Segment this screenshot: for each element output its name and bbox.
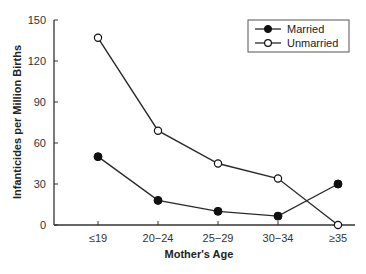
y-tick-label: 60 (34, 137, 46, 149)
data-point-unmarried (154, 127, 161, 134)
data-point-married (334, 180, 342, 188)
legend-marker-unmarried (265, 40, 272, 47)
data-point-married (94, 153, 102, 161)
x-tick-label: 20−24 (143, 232, 174, 244)
x-tick-label: 30−34 (263, 232, 294, 244)
x-tick-label: ≥35 (329, 232, 347, 244)
legend-label-unmarried: Unmarried (287, 37, 338, 49)
x-tick-label: 25−29 (203, 232, 234, 244)
data-point-unmarried (334, 221, 341, 228)
y-tick-label: 0 (40, 219, 46, 231)
series-line-unmarried (98, 38, 338, 225)
y-tick-label: 30 (34, 178, 46, 190)
data-point-unmarried (94, 34, 101, 41)
data-point-unmarried (274, 175, 281, 182)
series-group (94, 34, 342, 228)
line-chart: 0306090120150 ≤1920−2425−2930−34≥35 Moth… (0, 0, 366, 274)
legend-marker-married (264, 25, 271, 32)
data-point-married (274, 212, 282, 220)
y-axis-label: Infanticides per Million Births (11, 45, 23, 199)
x-axis-label: Mother's Age (165, 248, 234, 260)
data-point-married (214, 207, 222, 215)
legend-label-married: Married (287, 23, 324, 35)
legend: Married Unmarried (248, 20, 349, 52)
data-point-married (154, 196, 162, 204)
data-point-unmarried (214, 160, 221, 167)
y-tick-label: 90 (34, 96, 46, 108)
y-tick-label: 120 (28, 55, 46, 67)
y-tick-label: 150 (28, 14, 46, 26)
x-tick-label: ≤19 (89, 232, 107, 244)
